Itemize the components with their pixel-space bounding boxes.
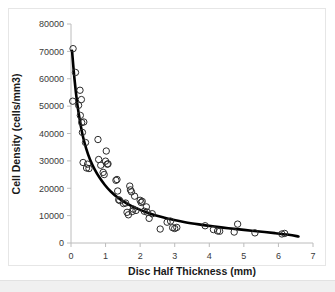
y-tick-label: 80000 (39, 19, 64, 29)
data-point (131, 193, 137, 199)
data-point (234, 221, 240, 227)
data-point (174, 224, 180, 230)
data-point (77, 87, 83, 93)
x-tick-label: 1 (103, 251, 108, 261)
trend-line-group (72, 51, 298, 237)
data-point (95, 136, 101, 142)
data-point (70, 98, 76, 104)
y-tick-label: 20000 (39, 184, 64, 194)
scatter-chart: 0100002000030000400005000060000700008000… (0, 0, 335, 292)
x-tick-label: 7 (310, 251, 315, 261)
data-point (146, 215, 152, 221)
y-tick-label: 30000 (39, 156, 64, 166)
x-tick-label: 2 (138, 251, 143, 261)
x-tick-label: 3 (172, 251, 177, 261)
y-axis-title: Cell Density (cells/mm3) (10, 74, 22, 195)
data-point (157, 226, 163, 232)
y-tick-label: 60000 (39, 74, 64, 84)
y-axis-ticks: 0100002000030000400005000060000700008000… (39, 19, 71, 248)
data-point (101, 171, 107, 177)
x-tick-label: 6 (276, 251, 281, 261)
trend-line (72, 51, 298, 237)
x-axis-title: Disc Half Thickness (mm) (128, 265, 256, 277)
y-tick-label: 70000 (39, 47, 64, 57)
y-tick-label: 50000 (39, 101, 64, 111)
figure-container: 0100002000030000400005000060000700008000… (0, 0, 335, 292)
data-points-group (70, 45, 288, 237)
data-point (114, 188, 120, 194)
y-tick-label: 40000 (39, 129, 64, 139)
x-tick-label: 0 (68, 251, 73, 261)
data-point (78, 96, 84, 102)
bottom-strip (0, 280, 335, 292)
y-tick-label: 0 (59, 238, 64, 248)
x-axis-ticks: 01234567 (68, 243, 315, 261)
data-point (103, 148, 109, 154)
x-tick-label: 5 (241, 251, 246, 261)
axes-group (71, 24, 313, 243)
y-tick-label: 10000 (39, 211, 64, 221)
x-tick-label: 4 (207, 251, 212, 261)
data-point (128, 189, 134, 195)
